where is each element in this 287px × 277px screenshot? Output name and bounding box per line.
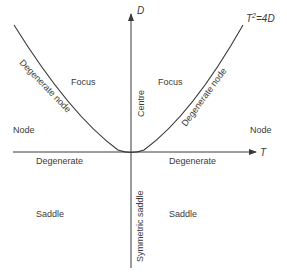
region-degenerate-node-right: Degenerate node bbox=[180, 66, 229, 128]
region-node-right: Node bbox=[250, 125, 272, 135]
t-axis-label: T bbox=[260, 147, 267, 158]
region-degenerate-left: Degenerate bbox=[36, 156, 83, 166]
region-saddle-right: Saddle bbox=[169, 209, 197, 219]
d-axis-label: D bbox=[137, 5, 144, 16]
region-focus-left: Focus bbox=[71, 77, 96, 87]
curve-label: T2=4D bbox=[246, 12, 275, 24]
region-symmetric-saddle: Symmetric saddle bbox=[135, 190, 145, 262]
region-degenerate-node-left: Degenerate node bbox=[18, 57, 74, 114]
region-focus-right: Focus bbox=[158, 77, 183, 87]
region-node-left: Node bbox=[13, 125, 35, 135]
region-centre: Centre bbox=[136, 90, 146, 117]
region-degenerate-right: Degenerate bbox=[169, 156, 216, 166]
region-saddle-left: Saddle bbox=[36, 209, 64, 219]
stability-diagram: D T T2=4D Focus Focus Centre Node Node D… bbox=[0, 0, 287, 277]
